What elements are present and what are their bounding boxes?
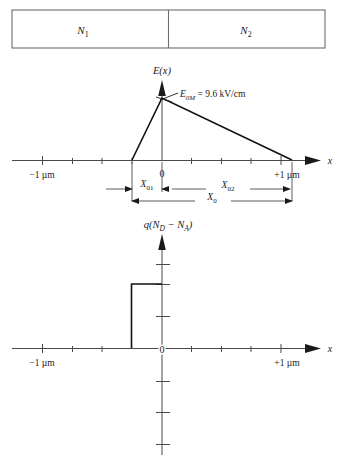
semiconductor-junction-figure: N1 N2 E(x) x −1 µm 0 +1 µm	[0, 0, 338, 460]
field-label-minus-1um: −1 µm	[29, 170, 55, 180]
field-peak-leader-tick	[156, 97, 172, 102]
electric-field-chart: E(x) x −1 µm 0 +1 µm E0M = 9.6	[12, 65, 333, 206]
figure-canvas: N1 N2 E(x) x −1 µm 0 +1 µm	[0, 0, 338, 460]
charge-x-axis-label: x	[327, 343, 333, 354]
charge-y-axis-arrowhead	[158, 234, 166, 250]
charge-y-ticks-negative	[156, 382, 170, 445]
charge-y-ticks-positive	[156, 265, 170, 317]
depletion-dimension-lines: X01 X02 X0	[106, 162, 293, 206]
dim-x01-label: X01	[140, 179, 154, 192]
field-y-axis-label: E(x)	[152, 65, 172, 77]
charge-label-origin: 0	[160, 344, 165, 355]
dim-x02-right-arrowhead	[283, 186, 291, 192]
field-label-plus-1um: +1 µm	[274, 170, 300, 180]
device-diagram: N1 N2	[12, 10, 325, 48]
charge-y-axis-label: q(ND − NA)	[144, 219, 193, 233]
field-peak-annotation: E0M = 9.6 kV/cm	[179, 89, 246, 102]
charge-x-axis-arrowhead	[305, 344, 321, 353]
field-y-axis-arrowhead	[158, 80, 166, 96]
charge-density-chart: q(ND − NA) x	[12, 219, 333, 455]
field-profile-curve	[132, 98, 292, 160]
charge-label-minus-1um: −1 µm	[29, 358, 55, 368]
charge-label-plus-1um: +1 µm	[274, 358, 300, 368]
field-x-axis-label: x	[327, 155, 333, 166]
field-x-axis-arrowhead	[305, 156, 321, 165]
